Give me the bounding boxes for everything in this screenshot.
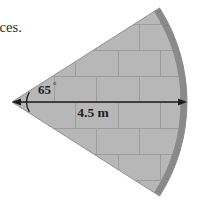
sector-diagram: 65 ° 4.5 m bbox=[0, 0, 201, 204]
angle-label-degree-symbol: ° bbox=[53, 80, 56, 90]
figure-page: aces. bbox=[0, 0, 201, 204]
angle-label-value: 65 bbox=[38, 82, 52, 97]
radius-label: 4.5 m bbox=[77, 105, 109, 120]
